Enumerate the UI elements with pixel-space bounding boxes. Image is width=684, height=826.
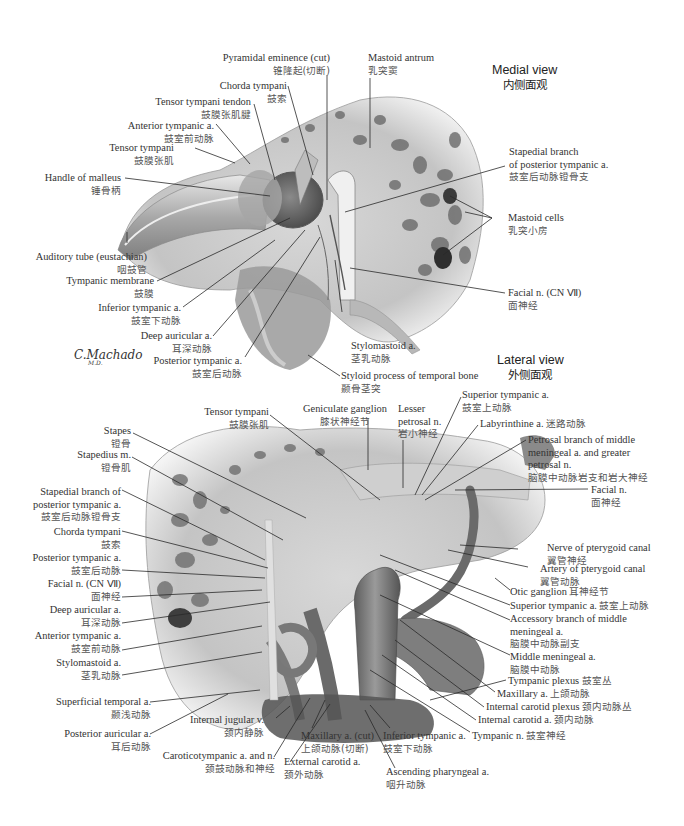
label-caroticotympanic: Caroticotympanic a. and n. 颈鼓动脉和神经 — [163, 750, 275, 775]
label-superior-tympanic-lateral: Superior tympanic a. 鼓室上动脉 — [510, 600, 649, 613]
label-petrosal-branch: Petrosal branch of middle meningeal a. a… — [528, 434, 648, 484]
label-stapes: Stapes 镫骨 — [104, 425, 131, 450]
label-middle-meningeal: Middle meningeal a. 脑膜中动脉 — [510, 651, 596, 676]
label-stapedial-branch-lateral: Stapedial branch of posterior tympanic a… — [33, 486, 121, 524]
label-chorda-tympani-lateral: Chorda tympani 鼓索 — [54, 526, 121, 551]
label-auditory-tube: Auditory tube (eustachian) 咽鼓管 — [36, 251, 147, 276]
label-otic-ganglion: Otic ganglion 耳神经节 — [510, 586, 609, 599]
label-internal-carotid-plexus: Internal carotid plexus 颈内动脉丛 — [486, 701, 632, 714]
label-superior-tympanic-top: Superior tympanic a. 鼓室上动脉 — [462, 389, 549, 414]
label-tympanic-membrane: Tympanic membrane 鼓膜 — [66, 275, 154, 300]
lateral-view-title-en: Lateral view — [497, 353, 564, 367]
label-internal-carotid-a: Internal carotid a. 颈内动脉 — [478, 714, 594, 727]
label-tensor-tympani-lateral: Tensor tympani 鼓膜张肌 — [204, 406, 269, 431]
label-inferior-tympanic-lateral: Inferior tympanic a. 鼓室下动脉 — [383, 730, 466, 755]
label-tympanic-plexus: Tympanic plexus 鼓室丛 — [508, 675, 612, 688]
label-mastoid-cells: Mastoid cells 乳突小房 — [508, 212, 564, 237]
label-geniculate-ganglion: Geniculate ganglion 膝状神经节 — [290, 403, 400, 428]
label-artery-pterygoid-canal: Artery of pterygoid canal 翼管动脉 — [540, 563, 645, 588]
label-styloid-process: Styloid process of temporal bone 颞骨茎突 — [341, 370, 478, 395]
lateral-view-title-zh: 外侧面观 — [497, 368, 564, 383]
label-pyramidal-eminence: Pyramidal eminence (cut) 锥隆起(切断) — [223, 52, 330, 77]
label-internal-jugular: Internal jugular v. 颈内静脉 — [190, 714, 264, 739]
label-posterior-auricular: Posterior auricular a. 耳后动脉 — [64, 728, 151, 753]
label-tensor-tympani-tendon: Tensor tympani tendon 鼓膜张肌腱 — [155, 96, 251, 121]
label-facial-n-lateral-right: Facial n. 面神经 — [591, 484, 627, 509]
label-superficial-temporal: Superficial temporal a. 颞浅动脉 — [56, 696, 151, 721]
label-accessory-branch: Accessory branch of middle meningeal a. … — [510, 613, 627, 651]
medial-view-title: Medial view 内侧面观 — [492, 63, 557, 93]
label-external-carotid: External carotid a. 颈外动脉 — [284, 756, 360, 781]
label-lesser-petrosal: Lesser petrosal n. 岩小神经 — [398, 403, 441, 441]
lateral-view-title: Lateral view 外侧面观 — [497, 353, 564, 383]
label-stylomastoid-lateral: Stylomastoid a. 茎乳动脉 — [56, 657, 121, 682]
label-inferior-tympanic-medial: Inferior tympanic a. 鼓室下动脉 — [98, 302, 181, 327]
label-tensor-tympani-medial: Tensor tympani 鼓膜张肌 — [109, 142, 174, 167]
label-deep-auricular-lateral: Deep auricular a. 耳深动脉 — [50, 604, 121, 629]
medial-view-title-en: Medial view — [492, 63, 557, 77]
label-ascending-pharyngeal: Ascending pharyngeal a. 咽升动脉 — [386, 766, 489, 791]
label-stapedial-branch-medial: Stapedial branch of posterior tympanic a… — [509, 146, 608, 184]
label-facial-nerve-medial: Facial n. (CN Ⅶ) 面神经 — [508, 287, 581, 312]
label-tympanic-n: Tympanic n. 鼓室神经 — [472, 730, 566, 743]
label-stylomastoid-medial: Stylomastoid a. 茎乳动脉 — [351, 340, 416, 365]
label-maxillary-cut: Maxillary a. (cut) 上颌动脉(切断) — [301, 730, 374, 755]
artist-signature: C.Machado M.D. — [74, 348, 143, 366]
label-handle-of-malleus: Handle of malleus 锤骨柄 — [45, 172, 121, 197]
label-labyrinthine-a: Labyrinthine a. 迷路动脉 — [480, 418, 586, 431]
anatomy-figure: Medial view 内侧面观 Lateral view 外侧面观 C.Mac… — [0, 0, 684, 826]
label-deep-auricular-medial: Deep auricular a. 耳深动脉 — [141, 330, 212, 355]
label-facial-n-lateral-left: Facial n. (CN Ⅶ) 面神经 — [48, 578, 121, 603]
label-anterior-tympanic-lateral: Anterior tympanic a. 鼓室前动脉 — [35, 630, 121, 655]
label-maxillary-a: Maxillary a. 上颌动脉 — [497, 688, 590, 701]
label-posterior-tympanic-lateral: Posterior tympanic a. 鼓室后动脉 — [32, 552, 121, 577]
label-mastoid-antrum: Mastoid antrum 乳突窦 — [368, 52, 434, 77]
label-stapedius: Stapedius m. 镫骨肌 — [77, 449, 131, 474]
medial-view-title-zh: 内侧面观 — [492, 78, 557, 93]
label-posterior-tympanic-medial: Posterior tympanic a. 鼓室后动脉 — [153, 355, 242, 380]
